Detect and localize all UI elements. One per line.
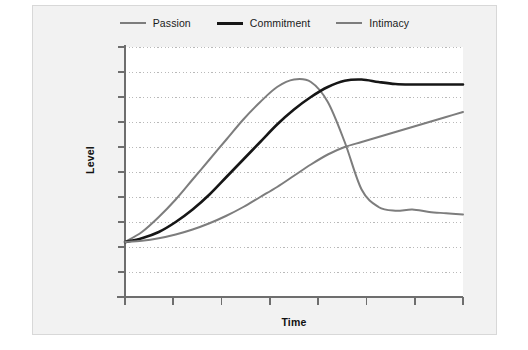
x-axis-ticks: [125, 297, 463, 305]
y-axis-title-wrap: Level: [80, 130, 100, 190]
y-axis-title: Level: [84, 146, 96, 174]
x-axis-title: Time: [281, 316, 306, 328]
x-axis-title-wrap: Time: [125, 315, 463, 329]
chart-plot-area: [32, 5, 497, 335]
y-axis-ticks: [118, 47, 125, 297]
figure-root: Passion Commitment Intimacy Level Time: [0, 0, 528, 350]
